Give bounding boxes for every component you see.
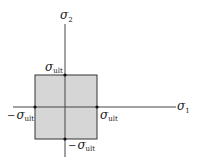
top-intercept-label: σult [45,60,63,75]
left-intercept-label: −σult [7,108,34,123]
bottom-intercept-point [63,137,66,140]
sigma2-axis-label: σ2 [60,8,73,24]
failure-envelope-diagram: σ2 σ1 σult σult −σult −σult [0,0,199,164]
sigma1-axis-label: σ1 [177,99,190,115]
top-intercept-point [63,73,66,76]
bottom-intercept-label: −σult [68,138,95,153]
left-intercept-point [33,105,36,108]
right-intercept-point [95,105,98,108]
right-intercept-label: σult [100,108,118,123]
